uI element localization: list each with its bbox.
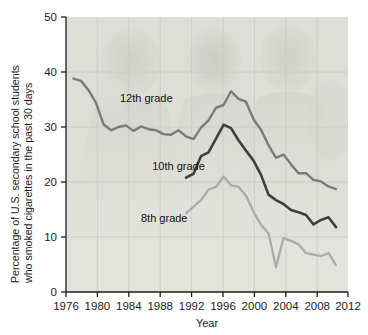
series-label-8th-grade: 8th grade (141, 212, 187, 224)
x-tick-label-2004: 2004 (273, 300, 299, 312)
y-tick-label-50: 50 (44, 11, 57, 23)
y-tick-label-20: 20 (44, 176, 57, 188)
y-tick-label-40: 40 (44, 66, 57, 78)
x-tick-label-1988: 1988 (147, 300, 173, 312)
x-tick-label-1976: 1976 (53, 300, 79, 312)
y-tick-label-0: 0 (51, 286, 57, 298)
chart-container: 0 10 20 30 40 50 Percentage of U.S. seco… (0, 0, 368, 335)
y-axis-title-line-2: who smoked cigarettes in the past 30 day… (22, 83, 34, 284)
y-axis-title: Percentage of U.S. secondary school stud… (9, 65, 34, 284)
x-tick-label-1984: 1984 (116, 300, 142, 312)
x-tick-label-1992: 1992 (179, 300, 205, 312)
x-tick-label-2000: 2000 (242, 300, 268, 312)
line-chart: 0 10 20 30 40 50 Percentage of U.S. seco… (0, 0, 368, 335)
x-axis-title: Year (196, 317, 219, 329)
x-tick-label-1996: 1996 (210, 300, 236, 312)
y-tick-label-10: 10 (44, 231, 57, 243)
x-tick-label-2008: 2008 (304, 300, 330, 312)
y-axis-title-line-1: Percentage of U.S. secondary school stud… (9, 65, 21, 283)
y-tick-label-30: 30 (44, 121, 57, 133)
background-photo-watermark (66, 17, 352, 292)
x-tick-label-1980: 1980 (85, 300, 111, 312)
series-label-12th-grade: 12th grade (120, 92, 173, 104)
series-label-10th-grade: 10th grade (152, 160, 205, 172)
x-tick-label-2012: 2012 (335, 300, 361, 312)
